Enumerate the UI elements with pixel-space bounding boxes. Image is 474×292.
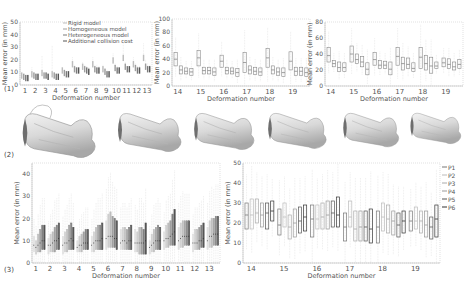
box — [145, 223, 146, 254]
box — [37, 74, 38, 80]
box — [195, 230, 196, 250]
box — [66, 230, 67, 252]
panel1b-axes: 020406080100Mean error (in mm)Deformatio… — [153, 15, 310, 103]
box — [56, 74, 57, 80]
box — [40, 230, 41, 252]
x-tick-label: 3 — [62, 265, 66, 273]
y-tick-label: 0 — [26, 259, 30, 266]
x-tick-label: 17 — [242, 88, 251, 96]
box — [199, 227, 200, 249]
box — [102, 223, 103, 250]
mesh-shape — [194, 113, 254, 149]
y-tick-label: 40 — [22, 170, 30, 177]
box — [108, 214, 109, 247]
box — [106, 71, 107, 77]
y-tick-label: 0 — [166, 82, 170, 89]
x-axis-label: Deformation number — [52, 94, 120, 102]
box — [141, 227, 142, 254]
box — [38, 234, 39, 252]
box — [33, 236, 34, 252]
y-tick-label: 40 — [162, 55, 170, 62]
box — [88, 69, 89, 75]
box — [73, 227, 74, 249]
y-tick-label: 20 — [22, 215, 30, 222]
box — [47, 74, 48, 80]
y-tick-label: 10 — [233, 239, 241, 246]
box — [44, 225, 45, 249]
y-tick-label: 0 — [14, 81, 18, 88]
box — [143, 55, 144, 61]
y-tick-label: 60 — [315, 34, 323, 41]
x-tick-label: 4 — [53, 87, 58, 95]
box — [50, 234, 51, 252]
y-axis-label: Mean error (in mm) — [224, 181, 232, 244]
x-tick-label: 19 — [441, 88, 450, 96]
box — [168, 223, 169, 247]
box — [119, 67, 120, 73]
x-tick-label: 18 — [378, 265, 387, 273]
x-tick-label: 2 — [48, 265, 52, 273]
box — [180, 223, 181, 247]
x-tick-label: 18 — [418, 88, 427, 96]
box — [124, 227, 125, 249]
box — [135, 65, 136, 71]
x-tick-label: 7 — [120, 265, 124, 273]
legend-entry: P1 — [448, 164, 456, 171]
box — [76, 67, 77, 73]
y-axis-label: Mean error (in mm) — [13, 181, 21, 244]
box — [58, 223, 59, 250]
box — [74, 66, 75, 72]
x-tick-label: 19 — [411, 265, 420, 273]
box — [106, 221, 107, 250]
box — [147, 66, 148, 72]
box — [110, 212, 111, 248]
box — [155, 227, 156, 249]
box — [93, 232, 94, 252]
box — [182, 221, 183, 248]
x-tick-label: 7 — [84, 87, 88, 95]
box — [128, 227, 129, 249]
box — [217, 216, 218, 245]
x-tick-label: 14 — [247, 265, 256, 273]
box — [135, 230, 136, 252]
y-tick-label: 30 — [10, 43, 18, 50]
box — [87, 230, 88, 250]
x-tick-label: 16 — [219, 88, 228, 96]
box — [98, 67, 99, 73]
box — [95, 227, 96, 249]
box — [45, 72, 46, 78]
box — [78, 67, 79, 73]
box — [27, 75, 28, 81]
mesh-renderings — [23, 105, 461, 158]
box — [186, 221, 187, 245]
legend-entry: P3 — [448, 180, 456, 187]
box — [139, 67, 140, 73]
x-axis-label: Deformation number — [92, 272, 160, 280]
figure-canvas: 01020304050Mean error (in mm)Deformation… — [0, 0, 474, 292]
box — [153, 230, 154, 252]
box — [84, 66, 85, 72]
box — [68, 71, 69, 77]
mesh-shape — [268, 113, 326, 148]
y-tick-label: 50 — [233, 159, 241, 166]
x-tick-label: 11 — [176, 265, 185, 273]
box — [72, 61, 73, 67]
box — [203, 223, 204, 247]
box — [43, 72, 44, 78]
box — [102, 66, 103, 72]
box — [159, 227, 160, 249]
box — [83, 232, 84, 250]
box — [69, 225, 70, 249]
x-tick-label: 13 — [205, 265, 214, 273]
box — [157, 225, 158, 249]
x-tick-label: 14 — [326, 88, 335, 96]
legend-entry: P6 — [448, 204, 456, 211]
box — [81, 234, 82, 252]
box — [143, 230, 144, 254]
box — [25, 75, 26, 81]
x-tick-label: 15 — [196, 88, 205, 96]
y-tick-label: 80 — [315, 18, 323, 25]
box — [213, 219, 214, 246]
box — [122, 227, 123, 249]
x-tick-label: 10 — [161, 265, 170, 273]
